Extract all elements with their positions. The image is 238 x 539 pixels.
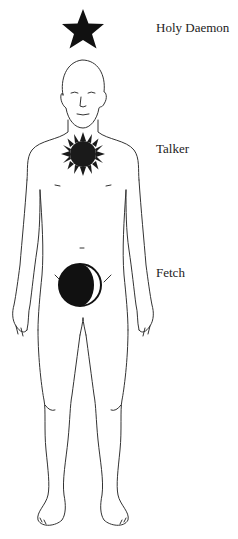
- moon-icon: [59, 264, 101, 306]
- fetch-label: Fetch: [156, 265, 185, 281]
- talker-label: Talker: [156, 141, 189, 157]
- star-icon: [62, 9, 104, 49]
- human-figure-drawing: [0, 0, 238, 539]
- holy-daemon-label: Holy Daemon: [156, 20, 229, 36]
- sun-icon: [61, 132, 105, 176]
- three-souls-diagram: Holy Daemon Talker Fetch: [0, 0, 238, 539]
